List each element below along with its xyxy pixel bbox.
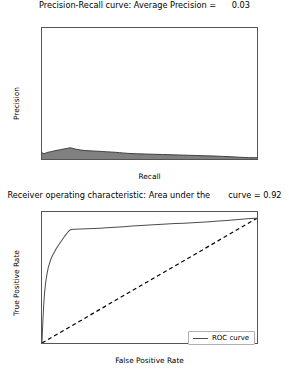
ytick-mark (41, 34, 42, 35)
precision-recall-area-fill (42, 148, 257, 159)
precision-recall-title: Precision-Recall curve: Average Precisio… (0, 0, 289, 11)
matplotlib-figure: Precision-Recall curve: Average Precisio… (0, 0, 289, 377)
roc-panel: Receiver operating characteristic: Area … (0, 190, 289, 377)
xtick-mark (128, 159, 129, 160)
precision-recall-xlabel: Recall (41, 172, 258, 181)
ytick-mark (41, 59, 42, 60)
ytick-mark (41, 84, 42, 85)
ytick-mark (41, 268, 42, 269)
roc-legend: ROC curve (188, 331, 255, 345)
ytick-mark (41, 318, 42, 319)
precision-recall-panel: Precision-Recall curve: Average Precisio… (0, 0, 289, 190)
xtick-mark (128, 343, 129, 344)
roc-axes: 0.00.20.40.60.81.0 0.00.20.40.60.81.0 (41, 211, 258, 344)
roc-title: Receiver operating characteristic: Area … (0, 190, 289, 201)
xtick-mark (214, 159, 215, 160)
roc-legend-line-swatch (193, 338, 208, 339)
xtick-mark (171, 159, 172, 160)
precision-recall-ylabel: Precision (12, 87, 21, 120)
ytick-mark (41, 109, 42, 110)
xtick-mark (257, 343, 258, 344)
precision-recall-plot-area (42, 28, 257, 159)
xtick-mark (42, 343, 43, 344)
xtick-mark (42, 159, 43, 160)
xtick-mark (171, 343, 172, 344)
xtick-mark (257, 159, 258, 160)
precision-recall-svg (42, 28, 257, 159)
ytick-mark (41, 293, 42, 294)
precision-recall-axes: 0.00.20.40.60.81.0 0.00.20.40.60.81.0 (41, 27, 258, 160)
xtick-mark (85, 159, 86, 160)
roc-legend-label: ROC curve (212, 334, 249, 342)
ytick-mark (41, 243, 42, 244)
roc-xlabel: False Positive Rate (41, 356, 258, 365)
ytick-mark (41, 218, 42, 219)
roc-chance-diagonal (42, 218, 257, 343)
xtick-mark (85, 343, 86, 344)
roc-plot-area (42, 212, 257, 343)
roc-svg (42, 212, 257, 343)
roc-ylabel: True Positive Rate (12, 250, 21, 316)
ytick-mark (41, 134, 42, 135)
